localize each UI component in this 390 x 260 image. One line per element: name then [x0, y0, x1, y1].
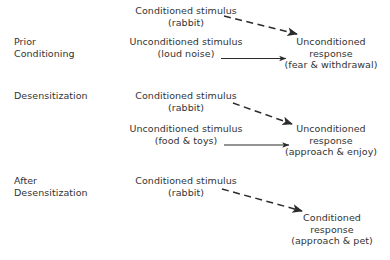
ur-line1: Unconditioned: [285, 36, 378, 48]
stage3-conditioned-response: Conditioned response (approach & pet): [291, 212, 373, 247]
cs-line1: Conditioned stimulus: [135, 175, 236, 187]
stage1-unconditioned-stimulus: Unconditioned stimulus (loud noise): [129, 36, 242, 59]
ur-line2: response: [285, 135, 377, 147]
stage-label-line2: Conditioning: [14, 48, 75, 60]
stage-label-line1: Prior: [14, 36, 75, 48]
cs-line1: Conditioned stimulus: [135, 5, 236, 17]
stage-label-prior-conditioning: Prior Conditioning: [14, 36, 75, 59]
cs-line2: (rabbit): [135, 17, 236, 29]
us-line2: (food & toys): [129, 135, 242, 147]
ur-line3: (approach & enjoy): [285, 146, 377, 158]
ur-line3: (fear & withdrawal): [285, 59, 378, 71]
cr-line3: (approach & pet): [291, 235, 373, 247]
stage-label-line1: Desensitization: [14, 90, 88, 102]
us-line1: Unconditioned stimulus: [129, 123, 242, 135]
stage2-conditioned-stimulus: Conditioned stimulus (rabbit): [135, 90, 236, 113]
conditioning-diagram: Prior Conditioning Conditioned stimulus …: [0, 0, 390, 260]
stage-label-line1: After: [14, 175, 88, 187]
stage1-conditioned-stimulus: Conditioned stimulus (rabbit): [135, 5, 236, 28]
stage2-unconditioned-stimulus: Unconditioned stimulus (food & toys): [129, 123, 242, 146]
us-line2: (loud noise): [129, 48, 242, 60]
stage3-conditioned-stimulus: Conditioned stimulus (rabbit): [135, 175, 236, 198]
stage-label-after-desensitization: After Desensitization: [14, 175, 88, 198]
stage2-unconditioned-response: Unconditioned response (approach & enjoy…: [285, 123, 377, 158]
stage-label-desensitization: Desensitization: [14, 90, 88, 102]
ur-line2: response: [285, 48, 378, 60]
cs-line2: (rabbit): [135, 102, 236, 114]
ur-line1: Unconditioned: [285, 123, 377, 135]
cs-line2: (rabbit): [135, 187, 236, 199]
us-line1: Unconditioned stimulus: [129, 36, 242, 48]
arrow-cs-to-ur-stage2: [233, 103, 292, 124]
cs-line1: Conditioned stimulus: [135, 90, 236, 102]
cr-line1: Conditioned: [291, 212, 373, 224]
stage-label-line2: Desensitization: [14, 187, 88, 199]
stage1-unconditioned-response: Unconditioned response (fear & withdrawa…: [285, 36, 378, 71]
cr-line2: response: [291, 224, 373, 236]
